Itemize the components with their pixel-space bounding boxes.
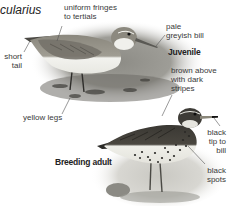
label-yellow-legs: yellow legs [23,113,62,122]
label-tertials: uniform fringes to tertials [64,3,117,21]
leader-tail [24,41,30,52]
stage-label-breeding-adult: Breeding adult [55,157,112,167]
stage-label-juvenile: Juvenile [168,47,200,57]
leader-upperparts [162,95,172,116]
leader-legs [62,98,70,114]
label-black-spots: black spots [200,166,226,184]
label-upperparts: brown above with dark stripes [171,66,217,93]
label-pale-bill: pale greyish bill [166,22,204,40]
label-bill-tip: black tip to bill [202,128,226,155]
scientific-name: cularius [0,3,41,17]
label-short-tail: short tail [2,52,22,70]
leader-bill-tip [214,118,220,126]
